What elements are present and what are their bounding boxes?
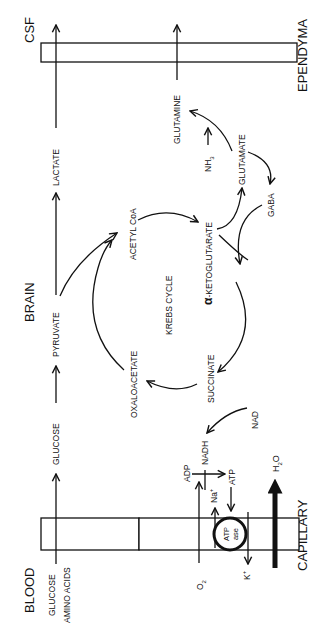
nad-to-nadh-arrow — [207, 408, 247, 433]
shunt-glutamine: GLUTAMINE — [172, 95, 182, 144]
ketoglutarate-to-succinate-arrow — [218, 282, 246, 372]
energy-na: Na+ — [208, 488, 219, 503]
energy-nad: NAD — [250, 411, 260, 429]
shunt-glutamate: GLUTAMATE — [237, 134, 247, 185]
ependyma-wall — [41, 43, 297, 62]
region-label-csf: CSF — [22, 17, 37, 43]
krebs-oxaloacetate: OXALOACETATE — [129, 350, 139, 418]
energy-k: K+ — [241, 570, 252, 580]
oxaloacetate-to-acetyl-coa-arc — [93, 240, 124, 370]
glutamine-return-curve — [219, 235, 248, 260]
barrier-label-ependyma: EPENDYMA — [295, 19, 310, 92]
krebs-ketoglutarate: α-KETOGLUTARATE — [201, 222, 215, 305]
energy-atp: ATP — [227, 469, 237, 485]
krebs-cycle-title: KREBS CYCLE — [164, 275, 174, 335]
brain-metabolism-diagram: BLOOD BRAIN CSF CAPILLARY EPENDYMA GLUCO… — [0, 0, 320, 641]
blood-input-amino-acids: AMINO ACIDS — [62, 567, 72, 623]
energy-adp: ADP — [182, 464, 192, 482]
pyruvate-to-acetyl-coa-arrow — [60, 233, 117, 296]
ketoglutarate-to-glutamate-arrow — [217, 188, 242, 229]
glutamate-to-gaba-arrow — [248, 152, 271, 184]
metabolite-lactate: LACTATE — [51, 149, 61, 186]
shunt-nh3: NH3 — [203, 156, 215, 172]
krebs-succinate: SUCCINATE — [206, 354, 216, 403]
glutamate-to-glutamine-arrow — [190, 111, 232, 151]
region-label-blood: BLOOD — [22, 567, 37, 613]
region-label-brain: BRAIN — [22, 282, 37, 322]
energy-nadh: NADH — [200, 441, 210, 465]
atpase-label-line1: ATP — [222, 527, 231, 541]
acetyl-coa-to-ketoglutarate-arrow — [138, 213, 198, 222]
metabolite-glucose: GLUCOSE — [51, 423, 61, 465]
krebs-acetyl-coa: ACETYL CoA — [128, 208, 138, 260]
atpase-label-line2: ase — [231, 528, 240, 540]
energy-o2: O2 — [195, 579, 207, 590]
metabolite-pyruvate: PYRUVATE — [51, 312, 61, 357]
blood-input-glucose: GLUCOSE — [47, 574, 57, 616]
succinate-to-oxaloacetate-arrow — [147, 381, 197, 389]
shunt-gaba: GABA — [266, 193, 276, 217]
energy-h2o: H2O — [271, 455, 283, 472]
